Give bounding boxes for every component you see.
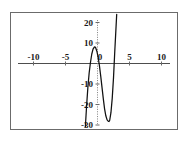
x-axis-label-10: 10 xyxy=(157,52,167,62)
plot-figure: -10 -5 0 5 10 20 10 -10 -20 -30 xyxy=(0,0,188,143)
function-curve xyxy=(85,14,116,127)
plot-canvas: -10 -5 0 5 10 20 10 -10 -20 -30 xyxy=(0,0,188,143)
y-axis-label-10: 10 xyxy=(84,38,94,48)
x-axis-label-neg10: -10 xyxy=(28,52,40,62)
y-axis-label-20: 20 xyxy=(84,18,94,28)
x-axis-label-neg5: -5 xyxy=(62,52,70,62)
x-axis-label-5: 5 xyxy=(127,52,132,62)
y-axis-label-neg30: -30 xyxy=(81,120,93,130)
